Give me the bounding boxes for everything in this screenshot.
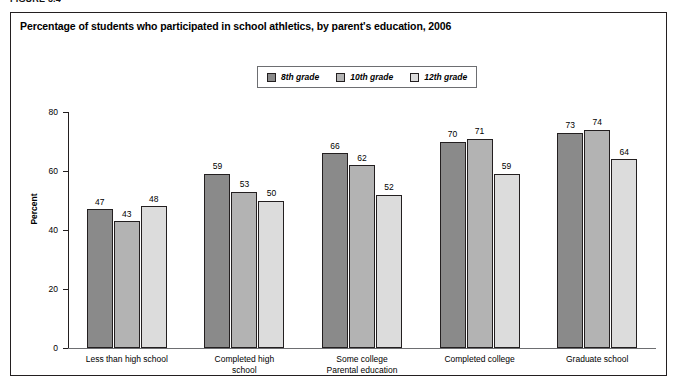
- bar: [114, 221, 140, 348]
- bar: [494, 174, 520, 348]
- y-axis-tick: [63, 171, 68, 172]
- bar-value-label: 43: [112, 210, 142, 219]
- x-axis-category-label: Graduate school: [522, 354, 672, 365]
- bar-value-label: 59: [202, 162, 232, 171]
- y-axis-tick-label: 0: [28, 344, 58, 353]
- y-axis-title: Percent: [29, 193, 39, 224]
- bar-group: 666252: [322, 112, 402, 348]
- bar-group: 474348: [87, 112, 167, 348]
- legend-swatch-icon: [410, 73, 419, 82]
- legend-item-12th-grade: 12th grade: [410, 72, 467, 82]
- legend-swatch-icon: [267, 73, 276, 82]
- legend-item-10th-grade: 10th grade: [336, 72, 393, 82]
- bar: [467, 139, 493, 348]
- chart-title: Percentage of students who participated …: [20, 20, 451, 32]
- legend-label: 10th grade: [350, 72, 393, 82]
- legend-swatch-icon: [336, 73, 345, 82]
- bar: [204, 174, 230, 348]
- bar: [557, 133, 583, 348]
- bar: [141, 206, 167, 348]
- bar: [584, 130, 610, 348]
- bar: [87, 209, 113, 348]
- bar: [231, 192, 257, 348]
- bar-value-label: 53: [229, 180, 259, 189]
- bar: [376, 195, 402, 348]
- bar-value-label: 73: [555, 121, 585, 130]
- y-axis-tick-label: 80: [28, 108, 58, 117]
- x-axis-title: Parental education: [287, 365, 437, 376]
- bar: [322, 153, 348, 348]
- y-axis-tick-label: 20: [28, 285, 58, 294]
- bar: [611, 159, 637, 348]
- legend-label: 12th grade: [424, 72, 467, 82]
- y-axis-tick: [63, 348, 68, 349]
- bar-value-label: 50: [256, 189, 286, 198]
- bar-value-label: 64: [609, 148, 639, 157]
- bar-value-label: 66: [320, 142, 350, 151]
- bar-value-label: 52: [374, 183, 404, 192]
- legend-label: 8th grade: [281, 72, 319, 82]
- y-axis-line: [68, 112, 69, 348]
- bar-value-label: 48: [139, 195, 169, 204]
- y-axis-tick: [63, 112, 68, 113]
- bar-value-label: 70: [438, 130, 468, 139]
- bar-group: 737464: [557, 112, 637, 348]
- bar: [440, 142, 466, 349]
- bar-value-label: 74: [582, 118, 612, 127]
- y-axis-tick: [63, 289, 68, 290]
- y-axis-tick-label: 60: [28, 167, 58, 176]
- bar-group: 595350: [204, 112, 284, 348]
- bar: [258, 201, 284, 349]
- legend-item-8th-grade: 8th grade: [267, 72, 319, 82]
- bar-group: 707159: [440, 112, 520, 348]
- bar-value-label: 71: [465, 127, 495, 136]
- bar-value-label: 59: [492, 162, 522, 171]
- chart-legend: 8th grade 10th grade 12th grade: [257, 66, 477, 88]
- y-axis-tick: [63, 230, 68, 231]
- plot-area: Percent 020406080 4743485953506662527071…: [68, 112, 656, 348]
- figure-caption: FIGURE 3.4: [10, 0, 61, 5]
- y-axis-tick-label: 40: [28, 226, 58, 235]
- bar: [349, 165, 375, 348]
- bar-value-label: 47: [85, 198, 115, 207]
- bar-value-label: 62: [347, 154, 377, 163]
- x-axis-line: [68, 348, 656, 349]
